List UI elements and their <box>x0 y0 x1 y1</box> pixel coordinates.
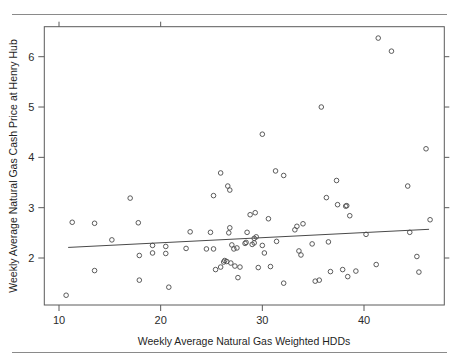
plot-frame <box>44 27 444 305</box>
data-point <box>163 244 168 249</box>
data-point <box>295 224 300 229</box>
data-point <box>233 264 238 269</box>
data-point <box>424 146 429 151</box>
data-point <box>301 221 306 226</box>
x-axis-title: Weekly Average Natural Gas Weighted HDDs <box>138 335 350 347</box>
data-point <box>204 247 209 252</box>
x-tick-label: 20 <box>155 314 167 326</box>
scatter-plot-svg: 10203040 23456 Weekly Average Natural Ga… <box>0 0 459 363</box>
data-point <box>345 274 350 279</box>
regression-line <box>68 229 429 247</box>
data-point <box>163 251 168 256</box>
scatter-plot-figure: 10203040 23456 Weekly Average Natural Ga… <box>0 0 459 363</box>
data-point <box>328 269 333 274</box>
data-point <box>70 220 75 225</box>
data-point <box>92 268 97 273</box>
data-point <box>184 246 189 251</box>
frame-tick-marks <box>59 22 449 258</box>
data-point <box>167 285 172 290</box>
data-point <box>326 240 331 245</box>
data-point <box>268 264 273 269</box>
data-point <box>229 261 234 266</box>
data-point <box>310 242 315 247</box>
data-point <box>110 238 115 243</box>
x-tick-label: 10 <box>53 314 65 326</box>
data-point <box>218 171 223 176</box>
data-point <box>428 217 433 222</box>
data-point <box>266 216 271 221</box>
data-point <box>235 246 240 251</box>
data-point <box>228 226 233 231</box>
data-point <box>211 193 216 198</box>
data-point <box>340 267 345 272</box>
data-point <box>281 281 286 286</box>
figure-page: 10203040 23456 Weekly Average Natural Ga… <box>0 0 459 363</box>
data-point <box>137 278 142 283</box>
data-point <box>335 202 340 207</box>
y-tick-label: 2 <box>28 252 34 264</box>
data-point <box>260 132 265 137</box>
data-point <box>415 254 420 259</box>
x-tick-label: 30 <box>256 314 268 326</box>
y-tick-label: 6 <box>28 51 34 63</box>
data-point <box>334 178 339 183</box>
data-points-layer <box>64 36 433 298</box>
data-point <box>319 105 324 110</box>
y-tick-label: 3 <box>28 202 34 214</box>
data-point <box>244 240 249 245</box>
x-axis-ticks: 10203040 <box>53 305 370 326</box>
data-point <box>253 210 258 215</box>
data-point <box>228 188 233 193</box>
data-point <box>136 220 141 225</box>
data-point <box>137 253 142 258</box>
data-point <box>405 184 410 189</box>
data-point <box>92 221 97 226</box>
x-tick-label: 40 <box>358 314 370 326</box>
data-point <box>262 251 267 256</box>
data-point <box>281 173 286 178</box>
data-point <box>354 269 359 274</box>
data-point <box>347 213 352 218</box>
data-point <box>374 262 379 267</box>
data-point <box>128 196 133 201</box>
data-point <box>64 293 69 298</box>
data-point <box>150 251 155 256</box>
data-point <box>274 239 279 244</box>
y-tick-label: 4 <box>28 151 34 163</box>
data-point <box>389 49 394 54</box>
data-point <box>256 265 261 270</box>
data-point <box>417 270 422 275</box>
y-axis-ticks: 23456 <box>28 51 44 264</box>
data-point <box>236 275 241 280</box>
data-point <box>150 243 155 248</box>
data-point <box>211 247 216 252</box>
data-point <box>248 212 253 217</box>
data-point <box>226 231 231 236</box>
data-point <box>376 36 381 41</box>
data-point <box>324 195 329 200</box>
data-point <box>218 265 223 270</box>
data-point <box>238 265 243 270</box>
data-point <box>273 169 278 174</box>
data-point <box>245 230 250 235</box>
data-point <box>208 230 213 235</box>
data-point <box>299 253 304 258</box>
data-point <box>188 230 193 235</box>
y-axis-title: Weekly Average Natural Gas Cash Price at… <box>7 39 19 293</box>
data-point <box>232 247 237 252</box>
data-point <box>260 243 265 248</box>
y-tick-label: 5 <box>28 101 34 113</box>
data-point <box>213 267 218 272</box>
